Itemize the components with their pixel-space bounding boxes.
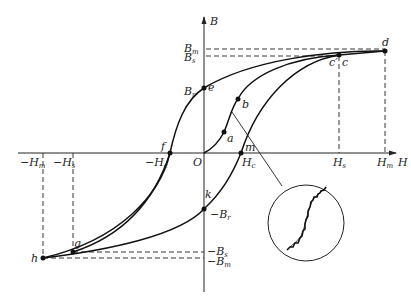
point-k [202, 207, 207, 212]
initial-magnetization-curve [204, 55, 339, 153]
tick-neg-hc: −Hc [145, 156, 168, 170]
label-d: d [382, 36, 389, 49]
tick-neg-br: −Br [210, 208, 231, 222]
tick-br: Br [183, 85, 196, 99]
label-g: g [74, 237, 81, 250]
magnifier-inset [268, 185, 344, 261]
label-h: h [31, 252, 38, 265]
label-c-prime: c′ [329, 56, 338, 69]
svg-text:−Hs: −Hs [53, 156, 76, 170]
point-h [41, 256, 46, 261]
svg-text:Hc: Hc [241, 156, 256, 170]
point-a [222, 130, 227, 135]
point-d [383, 49, 388, 54]
label-a: a [227, 132, 234, 145]
label-c: c [342, 56, 348, 69]
point-g [71, 250, 76, 255]
x-axis-label: H [397, 156, 408, 169]
tick-neg-hm: −Hm [20, 156, 46, 170]
point-m [239, 151, 244, 156]
svg-text:Br: Br [183, 85, 196, 99]
tick-hc: Hc [241, 156, 256, 170]
svg-text:−Hc: −Hc [145, 156, 168, 170]
point-e [202, 86, 207, 91]
svg-text:−Br: −Br [210, 208, 231, 222]
origin-label: O [193, 156, 202, 169]
svg-text:Hm: Hm [376, 156, 394, 170]
tick-neg-hs: −Hs [53, 156, 76, 170]
svg-text:−Hm: −Hm [20, 156, 46, 170]
label-b: b [242, 98, 249, 111]
svg-text:Hs: Hs [332, 156, 347, 170]
tick-hm: Hm [376, 156, 394, 170]
tick-hs: Hs [332, 156, 347, 170]
label-f: f [160, 140, 167, 153]
inset-pointer [232, 112, 282, 186]
point-f [168, 151, 173, 156]
y-axis-label: B [209, 15, 218, 28]
point-b [236, 97, 241, 102]
label-k: k [205, 188, 212, 201]
label-m: m [245, 141, 255, 154]
hysteresis-diagram: B H O d c c′ e b a f m k g h Bm Bs Br −B… [0, 0, 411, 296]
label-e: e [208, 81, 215, 94]
